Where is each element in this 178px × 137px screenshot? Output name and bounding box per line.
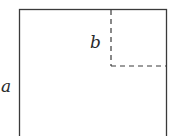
square-diagram: b a	[0, 0, 178, 136]
label-a: a	[1, 76, 11, 96]
outer-square	[20, 10, 167, 137]
label-b: b	[90, 32, 101, 52]
